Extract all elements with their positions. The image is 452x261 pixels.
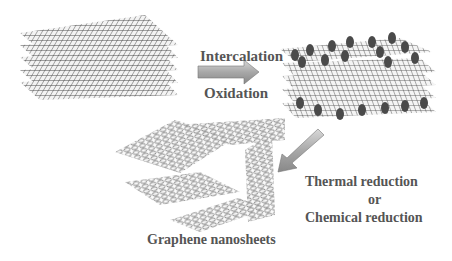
graphene-nanosheets [115,118,285,232]
step2-label-thermal: Thermal reduction [305,174,418,190]
graphite-stack [20,15,178,100]
step1-label-intercalation: Intercalation [200,48,283,65]
graphite-oxide-stack [280,32,436,120]
step2-label-chemical: Chemical reduction [305,210,423,226]
step1-label-oxidation: Oxidation [204,85,268,102]
product-label-graphene: Graphene nanosheets [147,232,276,248]
step2-label-or: or [368,192,381,208]
